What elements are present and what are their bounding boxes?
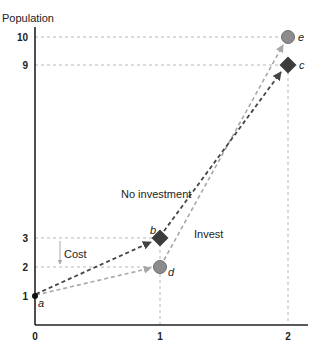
y-tick-1: 1 [22,291,28,302]
point-d-label: d [168,266,175,278]
point-d-circle [154,261,167,274]
x-tick-1: 1 [157,331,163,342]
figure-caption-cropped [10,349,240,357]
y-tick-2: 2 [22,262,28,273]
arrow-d-to-e [164,45,283,260]
point-e-circle [282,31,295,44]
point-c-label: c [299,59,305,71]
x-tick-0: 0 [32,331,38,342]
point-c-diamond [280,57,297,74]
invest-label: Invest [194,228,223,240]
arrow-b-to-c [164,72,281,231]
point-b-label: b [150,224,156,236]
y-axis-title: Population [2,12,54,24]
y-tick-3: 3 [22,233,28,244]
point-e-label: e [298,31,304,43]
arrow-a-to-d [36,268,151,295]
x-tick-2: 2 [285,331,291,342]
y-tick-10: 10 [17,32,29,43]
point-a-label: a [38,297,44,309]
population-investment-diagram: Population 10 9 3 2 1 0 1 2 Cost No inve… [0,0,326,357]
arrow-a-to-b [36,242,151,294]
no-investment-label: No investment [121,188,191,200]
cost-label: Cost [64,248,87,260]
y-tick-9: 9 [22,60,28,71]
